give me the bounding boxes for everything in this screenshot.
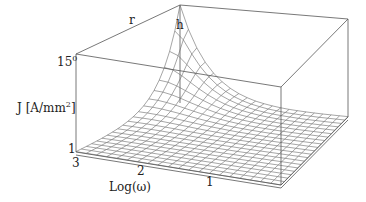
z-axis-label-main: J [A/mm [17, 101, 66, 115]
z-axis-label: J [A/mm2] [17, 102, 76, 114]
z-tick-max: 150 [57, 56, 77, 68]
x-axis-label: Log(ω) [109, 181, 151, 193]
x-tick-2: 2 [137, 165, 145, 177]
z-axis-label-end: ] [71, 101, 76, 115]
z-tick-max-value: 15 [57, 55, 72, 69]
corner-label-h: h [176, 19, 184, 31]
x-tick-1: 1 [206, 176, 214, 188]
z-tick-max-sup: 0 [72, 54, 77, 63]
z-axis-label-sup: 2 [66, 100, 71, 109]
x-tick-3: 3 [72, 157, 80, 169]
z-tick-min: 1 [68, 143, 76, 155]
box-back-edges [76, 5, 348, 152]
axis-label-r: r [129, 14, 135, 26]
